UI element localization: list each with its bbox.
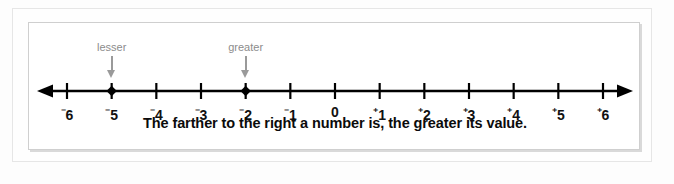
figure-caption: The farther to the right a number is, th… bbox=[29, 115, 641, 131]
number-line-panel: lessergreater ⁻6⁻5⁻4⁻3⁻2⁻10⁺1⁺2⁺3⁺4⁺5⁺6 … bbox=[28, 22, 640, 150]
number-line-graphic bbox=[29, 23, 641, 151]
axis-arrowhead-left bbox=[37, 85, 53, 98]
point-marker bbox=[240, 86, 250, 96]
axis-arrowhead-right bbox=[617, 85, 633, 98]
figure-page: lessergreater ⁻6⁻5⁻4⁻3⁻2⁻10⁺1⁺2⁺3⁺4⁺5⁺6 … bbox=[0, 0, 674, 184]
point-marker bbox=[106, 86, 116, 96]
